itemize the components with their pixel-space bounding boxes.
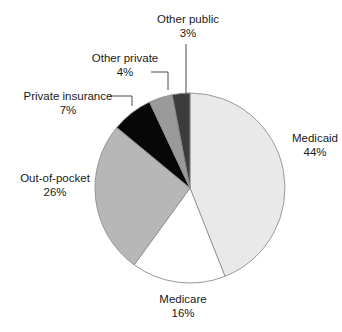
- slice-label-medicare-value: 16%: [140, 306, 226, 320]
- slice-label-medicaid-value: 44%: [288, 145, 342, 159]
- slice-label-other-public-value: 3%: [138, 26, 238, 40]
- slice-label-out-of-pocket-value: 26%: [8, 185, 102, 199]
- slice-label-out-of-pocket: Out-of-pocket 26%: [8, 171, 102, 199]
- slice-label-other-private-value: 4%: [85, 65, 165, 79]
- pie-chart-figure: Other public 3% Other private 4% Private…: [0, 0, 342, 332]
- slice-label-other-private: Other private 4%: [85, 51, 165, 79]
- slice-label-medicaid: Medicaid 44%: [288, 131, 342, 159]
- slice-label-other-private-name: Other private: [85, 51, 165, 65]
- slice-label-other-public-name: Other public: [138, 12, 238, 26]
- pie-slice-group: [95, 93, 285, 283]
- pie-chart-canvas: [0, 0, 342, 332]
- slice-label-medicare: Medicare 16%: [140, 292, 226, 320]
- slice-label-out-of-pocket-name: Out-of-pocket: [8, 171, 102, 185]
- slice-label-medicaid-name: Medicaid: [288, 131, 342, 145]
- slice-label-private-insurance: Private insurance 7%: [13, 89, 123, 117]
- slice-label-medicare-name: Medicare: [140, 292, 226, 306]
- slice-label-private-insurance-value: 7%: [13, 103, 123, 117]
- slice-label-other-public: Other public 3%: [138, 12, 238, 40]
- slice-label-private-insurance-name: Private insurance: [13, 89, 123, 103]
